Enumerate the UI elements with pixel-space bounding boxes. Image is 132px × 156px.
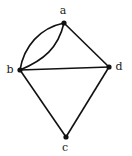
vertex-label-b: b <box>6 63 13 76</box>
vertex-b <box>17 67 22 72</box>
edge-a-b-outer <box>20 23 64 70</box>
vertex-label-d: d <box>115 60 122 73</box>
edge-d-c <box>66 67 109 137</box>
edge-b-d <box>20 67 109 70</box>
vertex-a <box>61 20 66 25</box>
vertex-c <box>63 134 68 139</box>
vertex-d <box>106 64 111 69</box>
vertex-label-a: a <box>60 4 67 17</box>
graph-diagram: a b d c <box>0 0 132 156</box>
vertex-label-c: c <box>62 141 68 154</box>
edge-a-b-inner <box>20 23 64 70</box>
edge-b-c <box>20 70 66 137</box>
edge-a-d <box>64 23 109 67</box>
